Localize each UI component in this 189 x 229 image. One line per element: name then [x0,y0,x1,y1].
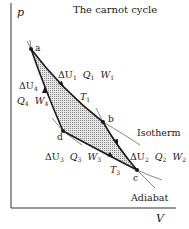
point-a [29,47,33,51]
point-b [101,120,105,124]
label-ab-quantities: ΔU1 Q1 W1 [58,69,114,82]
label-d: d [57,132,63,142]
label-bc-quantities: ΔU2 Q2 W2 [130,151,186,164]
carnot-diagram: The carnot cycle p V a b c d ΔU1 Q1 W1 T… [0,0,189,229]
label-b: b [108,114,114,124]
point-c [135,168,139,172]
label-a: a [35,43,41,53]
label-cd-quantities: ΔU3 Q3 W3 [45,151,101,164]
label-da-du: ΔU4 [19,80,38,92]
isotherm-curve-t3 [137,170,162,180]
y-axis-label: p [17,6,24,19]
diagram-title: The carnot cycle [73,4,157,15]
label-da-qw: Q4 W4 [17,95,48,108]
label-c: c [133,173,138,183]
label-t1: T1 [80,91,90,103]
adiabat-extension-c [137,170,155,188]
isotherm-label: Isotherm [137,127,180,138]
label-t3: T3 [110,164,120,176]
adiabat-label: Adiabat [130,192,168,203]
x-axis-label: V [156,212,165,225]
